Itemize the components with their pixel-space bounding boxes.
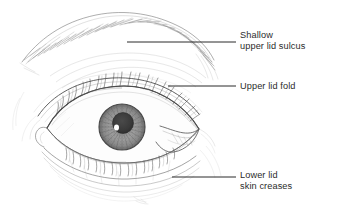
eyelid-anatomy-figure: Shallow upper lid sulcus Upper lid fold … [0,0,338,217]
label-shallow-upper-lid-sulcus: Shallow upper lid sulcus [240,30,305,52]
corneal-highlight [114,124,119,130]
label-lower-lid-skin-creases: Lower lid skin creases [240,170,292,192]
label-line-1: Upper lid fold [240,81,296,91]
label-line-1: Shallow [240,30,273,40]
label-line-2: skin creases [240,181,292,192]
eyebrow-arch [20,13,218,80]
inner-canthus [22,116,47,147]
label-upper-lid-fold: Upper lid fold [240,81,296,92]
label-line-2: upper lid sulcus [240,41,305,52]
label-line-1: Lower lid [240,170,278,180]
